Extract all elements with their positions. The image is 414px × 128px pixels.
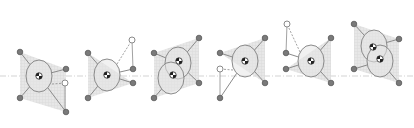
foot-point-icon: [63, 109, 69, 115]
foot-point-icon: [130, 80, 136, 86]
foot-point-icon: [351, 66, 357, 72]
foot-point-icon: [328, 80, 334, 86]
foot-point-icon: [130, 66, 136, 72]
swing-drop-line: [132, 40, 133, 69]
foot-point-icon: [262, 35, 268, 41]
swing-foot-icon: [129, 37, 135, 43]
stage-2: [85, 37, 136, 101]
stage-4: [217, 35, 268, 101]
foot-point-icon: [196, 80, 202, 86]
foot-point-icon: [151, 50, 157, 56]
foot-point-icon: [217, 50, 223, 56]
foot-point-icon: [85, 50, 91, 56]
swing-trajectory: [117, 40, 132, 64]
foot-point-icon: [85, 95, 91, 101]
stage-1: [17, 49, 69, 115]
swing-trajectory: [287, 24, 300, 52]
foot-point-icon: [328, 35, 334, 41]
swing-foot-icon: [284, 21, 290, 27]
stages: [17, 21, 402, 115]
foot-point-icon: [262, 80, 268, 86]
foot-point-icon: [17, 49, 23, 55]
foot-point-icon: [196, 35, 202, 41]
diagram-canvas: [0, 0, 414, 128]
stage-3: [151, 35, 202, 101]
foot-point-icon: [396, 80, 402, 86]
swing-foot-icon: [217, 66, 223, 72]
leg-line: [220, 73, 237, 98]
foot-point-icon: [351, 21, 357, 27]
swing-foot-icon: [62, 80, 68, 86]
foot-point-icon: [283, 50, 289, 56]
foot-point-icon: [63, 66, 69, 72]
foot-point-icon: [283, 66, 289, 72]
gait-diagram: [0, 0, 414, 128]
body-ellipse: [158, 62, 184, 94]
stage-6: [351, 21, 402, 86]
foot-point-icon: [217, 95, 223, 101]
foot-point-icon: [396, 36, 402, 42]
swing-drop-line: [286, 24, 287, 53]
foot-point-icon: [17, 95, 23, 101]
foot-point-icon: [151, 95, 157, 101]
